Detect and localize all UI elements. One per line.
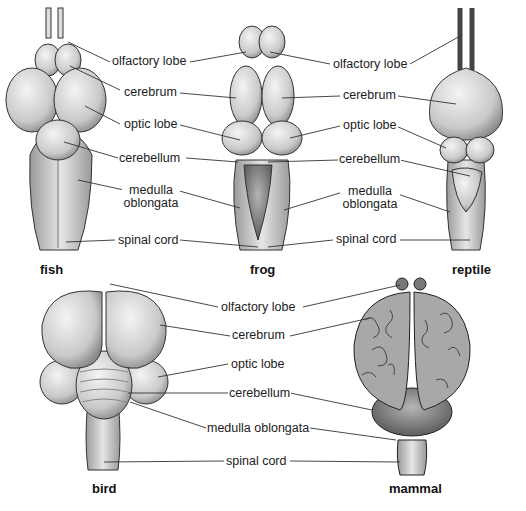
fish-frog-label-cerebrum: cerebrum [123, 86, 178, 99]
mammal-brain [354, 278, 470, 475]
fish-frog-label-olfactory-lobe: olfactory lobe [111, 55, 187, 68]
caption-mammal: mammal [389, 481, 442, 496]
frog-reptile-label-cerebrum: cerebrum [342, 89, 397, 102]
bird-mammal-label-optic-lobe: optic lobe [230, 358, 286, 371]
caption-reptile: reptile [452, 262, 491, 277]
bird-mammal-label-cerebrum: cerebrum [231, 329, 286, 342]
fish-frog-label-spinal-cord: spinal cord [117, 234, 179, 247]
frog-reptile-label-oblongata: oblongata [340, 198, 400, 211]
caption-bird: bird [92, 481, 117, 496]
fish-frog-label-optic-lobe: optic lobe [123, 118, 179, 131]
bird-brain [40, 291, 168, 470]
frog-reptile-label-optic-lobe: optic lobe [342, 119, 398, 132]
bird-mammal-label-spinal-cord: spinal cord [225, 455, 287, 468]
bird-mammal-label-olfactory-lobe: olfactory lobe [220, 301, 296, 314]
fish-frog-label-oblongata: oblongata [122, 197, 180, 210]
frog-reptile-label-olfactory-lobe: olfactory lobe [332, 58, 408, 71]
frog-reptile-label-cerebellum: cerebellum [338, 153, 401, 166]
caption-fish: fish [40, 262, 63, 277]
fish-brain [6, 8, 106, 250]
bird-mammal-label-cerebellum: cerebellum [228, 387, 291, 400]
caption-frog: frog [250, 262, 275, 277]
frog-reptile-label-spinal-cord: spinal cord [335, 233, 397, 246]
fish-frog-label-cerebellum: cerebellum [118, 152, 181, 165]
reptile-brain [429, 8, 502, 250]
bird-mammal-label-medulla-oblongata: medulla oblongata [206, 422, 310, 435]
